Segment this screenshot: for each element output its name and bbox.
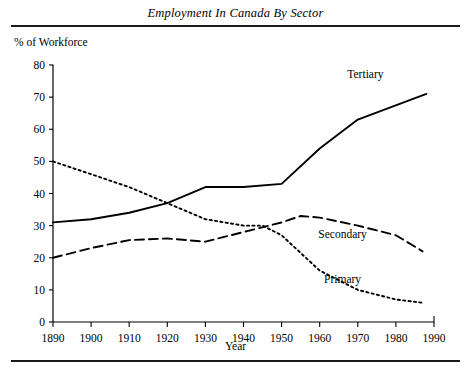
y-axis-tick-label: 80 [34, 59, 46, 71]
series-label-tertiary: Tertiary [347, 68, 383, 81]
y-axis-tick-label: 10 [34, 284, 46, 296]
series-label-secondary: Secondary [318, 228, 367, 241]
y-axis-tick-label: 30 [34, 220, 46, 232]
x-axis-label: Year [0, 340, 471, 352]
y-axis-tick-label: 20 [34, 252, 46, 264]
plot-area: 0102030405060708018901900191019201930194… [0, 0, 471, 376]
series-line-tertiary [53, 94, 426, 223]
series-line-primary [53, 161, 423, 302]
y-axis-tick-label: 60 [34, 123, 46, 135]
y-axis-tick-label: 70 [34, 91, 46, 103]
y-axis-tick-label: 0 [39, 316, 45, 328]
y-axis-tick-label: 40 [34, 188, 46, 200]
series-label-primary: Primary [324, 273, 361, 286]
chart-figure: Employment In Canada By Sector % of Work… [0, 0, 471, 376]
y-axis-tick-label: 50 [34, 155, 46, 167]
series-line-secondary [53, 216, 423, 258]
